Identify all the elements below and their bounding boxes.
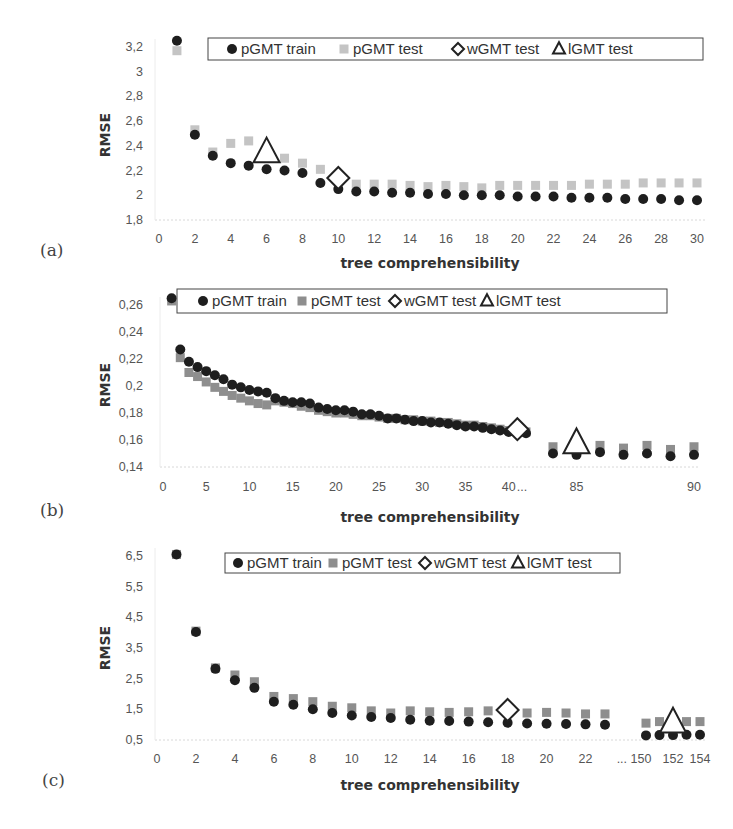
data-point-circle [513,192,523,202]
data-point-circle [423,189,433,199]
data-point-square [464,707,473,716]
data-point-circle [315,178,325,188]
data-point-circle [561,719,571,729]
data-point-circle [435,417,445,427]
data-point-circle [308,704,318,714]
x-tick-label: 85 [570,480,584,494]
legend-label: pGMT train [247,554,322,571]
data-point-circle [542,719,552,729]
data-point-square [254,399,263,408]
y-tick-label: 0,14 [119,460,143,474]
chart-panel-a: 1,822,22,42,62,833,202468101214161820222… [97,36,705,271]
data-point-circle [351,187,361,197]
data-point-circle [638,194,648,204]
data-point-circle [400,415,410,425]
data-point-circle [297,168,307,178]
legend-label: lGMT test [568,40,634,57]
data-point-circle [208,151,218,161]
data-point-circle [452,420,462,430]
legend-marker-square [340,45,349,54]
data-point-circle [244,161,254,171]
legend-marker-circle [198,296,208,306]
y-tick-label: 1,8 [126,213,143,227]
data-point-circle [172,36,182,46]
data-point-circle [549,192,559,202]
data-point-square [236,394,245,403]
data-point-square [184,368,193,377]
data-point-square [513,181,522,190]
data-point-circle [369,187,379,197]
data-point-square [280,154,289,163]
data-point-circle [193,362,203,372]
data-point-circle [191,627,201,637]
data-point-circle [692,195,702,205]
data-point-square [682,717,691,726]
data-point-square [219,387,228,396]
y-tick-label: 2 [136,188,143,202]
data-point-circle [695,730,705,740]
data-point-square [441,181,450,190]
x-tick-label: 12 [384,752,398,766]
data-point-circle [314,403,324,413]
data-point-circle [486,424,496,434]
data-point-circle [327,708,337,718]
data-point-circle [417,416,427,426]
data-point-square [226,139,235,148]
data-point-square [445,708,454,717]
data-point-circle [365,409,375,419]
y-tick-label: 2,2 [126,164,143,178]
data-point-square [495,181,504,190]
data-point-circle [210,664,220,674]
data-point-square [693,178,702,187]
x-tick-label: 26 [618,232,632,246]
x-tick-label: ... 150 [617,752,652,766]
data-point-circle [405,715,415,725]
y-tick-label: 2,8 [126,89,143,103]
y-tick-label: 0,26 [119,298,143,312]
x-tick-label: 14 [403,232,417,246]
x-tick-label: 20 [329,480,343,494]
data-point-circle [280,166,290,176]
data-point-circle [566,193,576,203]
data-point-circle [253,386,263,396]
data-point-circle [674,195,684,205]
x-tick-label: 35 [459,480,473,494]
data-point-circle [249,683,259,693]
data-point-circle [459,190,469,200]
data-point-circle [600,720,610,730]
x-tick-label: 4 [227,232,234,246]
data-point-circle [167,293,177,303]
x-axis-title: tree comprehensibility [340,255,519,271]
legend-label: pGMT train [241,40,316,57]
data-point-circle [227,380,237,390]
data-point-circle [581,719,591,729]
x-tick-label: 6 [263,232,270,246]
data-point-square [696,717,705,726]
legend-label: pGMT test [342,554,413,571]
y-tick-label: 2,5 [126,672,143,686]
x-tick-label: 16 [462,752,476,766]
x-tick-label: 4 [231,752,238,766]
data-point-circle [595,447,605,457]
data-point-square [244,136,253,145]
data-point-circle [548,449,558,459]
data-point-square [621,180,630,189]
data-point-circle [288,700,298,710]
y-tick-label: 0,2 [126,379,143,393]
y-tick-label: 3 [136,65,143,79]
data-point-circle [184,357,194,367]
x-tick-label: 12 [367,232,381,246]
y-tick-label: 0,24 [119,325,143,339]
y-tick-label: 3,2 [126,40,143,54]
data-point-circle [619,450,629,460]
data-point-circle [441,189,451,199]
legend-marker-circle [227,44,237,54]
data-point-circle [641,730,651,740]
data-point-circle [391,413,401,423]
data-point-circle [584,193,594,203]
data-point-circle [348,407,358,417]
data-point-circle [469,422,479,432]
data-point-square [639,178,648,187]
data-point-circle [262,164,272,174]
x-tick-label: 154 [690,752,711,766]
